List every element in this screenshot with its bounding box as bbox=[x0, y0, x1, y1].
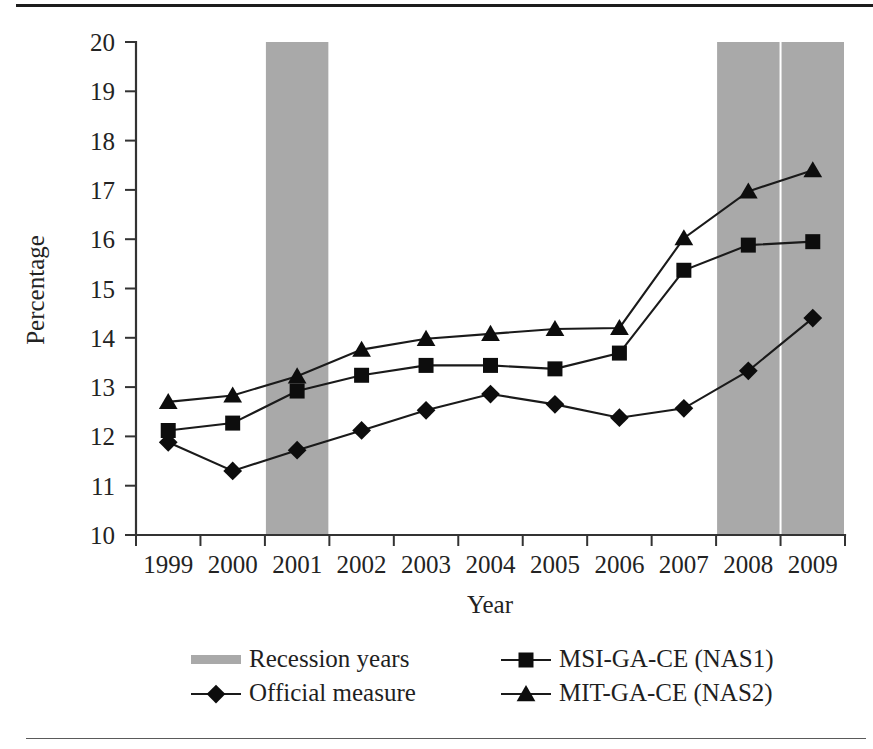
x-axis-tick-label: 2001 bbox=[272, 551, 322, 578]
x-axis-tick-label: 2000 bbox=[208, 551, 258, 578]
y-axis-title: Percentage bbox=[22, 235, 49, 345]
data-point-marker bbox=[354, 368, 369, 383]
legend-entry-label: Recession years bbox=[249, 645, 409, 672]
recession-band bbox=[717, 42, 779, 535]
data-point-marker bbox=[741, 238, 756, 253]
data-point-marker bbox=[674, 229, 693, 245]
y-axis-tick-label: 11 bbox=[91, 473, 115, 500]
legend-entry[interactable]: MIT-GA-CE (NAS2) bbox=[501, 679, 773, 707]
data-point-marker bbox=[674, 399, 693, 418]
data-point-marker bbox=[610, 408, 629, 427]
data-point-marker bbox=[417, 401, 436, 420]
x-axis-tick-label: 2005 bbox=[530, 551, 580, 578]
y-axis-tick-label: 13 bbox=[90, 374, 115, 401]
legend-entry[interactable]: MSI-GA-CE (NAS1) bbox=[501, 645, 774, 673]
legend-swatch-marker bbox=[207, 685, 226, 704]
figure-container: 1011121314151617181920 19992000200120022… bbox=[0, 0, 873, 749]
x-axis-tick-label: 2004 bbox=[466, 551, 517, 578]
legend-entry[interactable]: Recession years bbox=[191, 645, 409, 672]
y-axis-tick-label: 18 bbox=[90, 128, 115, 155]
data-point-marker bbox=[612, 346, 627, 361]
chart-legend: Recession yearsOfficial measureMSI-GA-CE… bbox=[191, 645, 774, 707]
data-point-marker bbox=[481, 385, 500, 404]
x-axis-tick-label: 2007 bbox=[659, 551, 709, 578]
y-axis-tick-label: 17 bbox=[90, 177, 115, 204]
data-point-marker bbox=[161, 423, 176, 438]
recession-band bbox=[266, 42, 328, 535]
y-axis-tick-label: 12 bbox=[90, 423, 115, 450]
recession-band bbox=[782, 42, 844, 535]
data-point-marker bbox=[223, 462, 242, 481]
data-point-marker bbox=[225, 416, 240, 431]
legend-entry-label: MIT-GA-CE (NAS2) bbox=[559, 679, 773, 707]
y-axis-tick-label: 19 bbox=[90, 78, 115, 105]
x-axis-tick-label: 2009 bbox=[788, 551, 838, 578]
chart-canvas: 1011121314151617181920 19992000200120022… bbox=[0, 0, 873, 749]
data-point-marker bbox=[419, 358, 434, 373]
x-axis-title: Year bbox=[467, 591, 514, 618]
data-point-marker bbox=[290, 384, 305, 399]
legend-swatch-marker bbox=[519, 653, 534, 668]
data-point-marker bbox=[547, 361, 562, 376]
bottom-divider-rule bbox=[26, 738, 866, 739]
y-axis-tick-label: 20 bbox=[90, 29, 115, 56]
data-point-marker bbox=[546, 395, 565, 414]
data-point-marker bbox=[805, 234, 820, 249]
x-axis-tick-label: 2003 bbox=[401, 551, 451, 578]
y-axis-tick-label: 16 bbox=[90, 226, 115, 253]
y-tick-labels-group: 1011121314151617181920 bbox=[90, 29, 136, 549]
y-axis-tick-label: 10 bbox=[90, 522, 115, 549]
x-tick-labels-group: 1999200020012002200320042005200620072008… bbox=[136, 535, 845, 578]
x-axis-tick-label: 2006 bbox=[594, 551, 644, 578]
y-axis-tick-label: 14 bbox=[90, 325, 116, 352]
x-axis-tick-label: 1999 bbox=[143, 551, 193, 578]
data-point-marker bbox=[352, 421, 371, 440]
x-axis-tick-label: 2008 bbox=[723, 551, 773, 578]
legend-swatch-recession-band bbox=[191, 655, 241, 664]
x-axis-tick-label: 2002 bbox=[337, 551, 387, 578]
recession-bands-group bbox=[266, 42, 844, 535]
y-axis-tick-label: 15 bbox=[90, 276, 115, 303]
data-point-marker bbox=[483, 358, 498, 373]
legend-entry-label: MSI-GA-CE (NAS1) bbox=[559, 645, 774, 673]
legend-entry[interactable]: Official measure bbox=[191, 679, 416, 706]
data-point-marker bbox=[676, 263, 691, 278]
legend-entry-label: Official measure bbox=[249, 679, 416, 706]
